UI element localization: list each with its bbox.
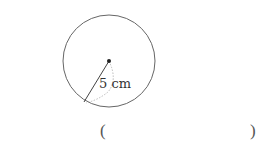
close-paren: ) [250,121,256,141]
radius-label: 5 cm [99,76,131,91]
center-dot [107,59,111,63]
answer-blank[interactable] [112,124,242,142]
open-paren: ( [100,121,106,141]
